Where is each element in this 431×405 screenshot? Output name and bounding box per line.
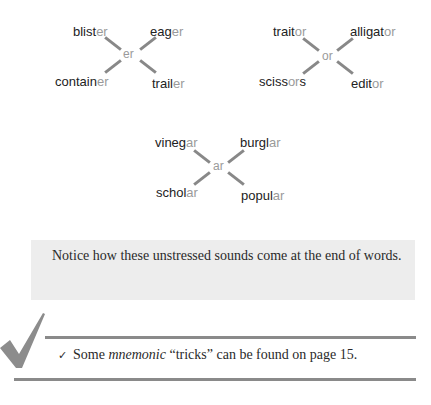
- word-cross-ar: vinegar burglar scholar popular ar: [150, 135, 310, 225]
- word-burglar: burglar: [240, 135, 280, 150]
- connector-line: [302, 60, 320, 75]
- note-text: Notice how these unstressed sounds come …: [52, 248, 407, 263]
- top-rule: [45, 336, 416, 339]
- suffix-label-or: or: [322, 49, 333, 63]
- connector-line: [139, 59, 157, 74]
- connector-line: [227, 149, 245, 164]
- word-cross-or: traitor alligator scissors editor or: [257, 18, 417, 108]
- bottom-rule: [14, 378, 416, 381]
- word-popular: popular: [241, 188, 284, 203]
- tip-text: ✓Some mnemonic “tricks” can be found on …: [58, 347, 357, 363]
- mnemonic-word: mnemonic: [108, 347, 166, 362]
- word-alligator: alligator: [350, 24, 396, 39]
- connector-line: [227, 171, 245, 186]
- connector-line: [193, 171, 211, 186]
- connector-line: [302, 37, 320, 52]
- connector-line: [104, 59, 122, 74]
- suffix-label-ar: ar: [213, 159, 224, 173]
- word-traitor: traitor: [273, 24, 306, 39]
- word-scholar: scholar: [156, 185, 198, 200]
- connector-line: [104, 36, 122, 51]
- checkmark-icon: [0, 310, 46, 370]
- note-box: Notice how these unstressed sounds come …: [31, 240, 415, 300]
- word-scissors: scissors: [259, 74, 306, 89]
- word-cross-er: blister eager container trailer er: [55, 18, 215, 108]
- word-trailer: trailer: [152, 76, 185, 91]
- connector-line: [193, 149, 211, 164]
- connector-line: [336, 37, 354, 52]
- word-container: container: [55, 74, 108, 89]
- word-editor: editor: [351, 76, 384, 91]
- word-vinegar: vinegar: [155, 135, 198, 150]
- suffix-label-er: er: [123, 47, 134, 61]
- connector-line: [336, 60, 354, 75]
- word-blister: blister: [73, 24, 108, 39]
- connector-line: [139, 36, 157, 51]
- small-check-icon: ✓: [58, 349, 67, 361]
